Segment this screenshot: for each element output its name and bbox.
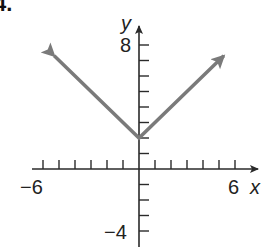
y-min-label: −4 bbox=[104, 221, 127, 243]
x-axis-name: x bbox=[249, 176, 261, 198]
y-max-label: 8 bbox=[120, 34, 131, 56]
y-axis-name: y bbox=[119, 12, 132, 34]
graph-canvas: −6 6 x y 8 −4 bbox=[0, 0, 272, 250]
x-min-label: −6 bbox=[20, 176, 43, 198]
x-max-label: 6 bbox=[228, 176, 239, 198]
